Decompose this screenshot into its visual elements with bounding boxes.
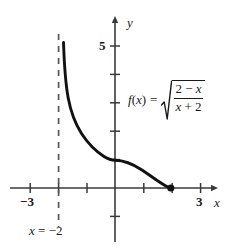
- radical-expression: 2 − x x + 2: [161, 80, 204, 120]
- fraction-numerator: 2 − x: [174, 81, 202, 98]
- denominator-b: 2: [195, 99, 202, 114]
- y-axis-label: y: [127, 16, 133, 29]
- numerator-b: x: [196, 81, 202, 96]
- endpoint-dot: [167, 184, 174, 191]
- formula-close-paren: ): [142, 92, 146, 107]
- asymptote-label-value: −2: [49, 223, 63, 238]
- fraction-denominator: x + 2: [174, 99, 202, 116]
- numerator-op: −: [185, 81, 192, 96]
- graph-figure: y x 5 −3 3 x = −2 f(x) = 2 − x x + 2: [0, 0, 239, 250]
- formula-function-name: f(x): [128, 92, 146, 108]
- x-axis-label: x: [214, 196, 220, 209]
- asymptote-label: x = −2: [29, 224, 62, 237]
- plot-canvas: [0, 0, 239, 250]
- function-formula: f(x) = 2 − x x + 2: [128, 80, 205, 120]
- denominator-op: +: [184, 99, 191, 114]
- x-tick-label-neg3: −3: [20, 195, 34, 208]
- x-tick-label-3: 3: [196, 195, 203, 208]
- y-tick-label-5: 5: [99, 39, 106, 52]
- radicand-fraction: 2 − x x + 2: [172, 80, 204, 120]
- formula-equals: =: [150, 92, 157, 108]
- radical-sign-icon: [161, 80, 172, 120]
